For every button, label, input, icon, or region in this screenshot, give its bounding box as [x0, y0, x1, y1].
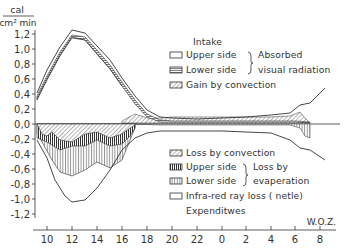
legend-intake-title: Intake	[193, 36, 222, 47]
y-tick: 0,8	[14, 59, 30, 70]
legend-item-upper-side-evap: Upper side	[170, 161, 237, 172]
x-tick: 22	[191, 234, 204, 245]
svg-text:Absorbed: Absorbed	[258, 49, 302, 60]
x-tick: 20	[166, 234, 179, 245]
y-tick: -0,6	[10, 164, 30, 175]
svg-text:visual radiation: visual radiation	[258, 64, 330, 75]
x-tick: 4	[268, 234, 274, 245]
svg-text:Upper side: Upper side	[186, 49, 237, 60]
legend-item-lower-side-intake: Lower side	[170, 64, 237, 75]
y-axis: 1,2 1,0 0,8 0,6 0,4 0,2 0,0 -0,2 -0,4 -0…	[10, 29, 35, 220]
svg-text:Loss by: Loss by	[253, 161, 289, 172]
swatch-horizontal-hatch-icon	[170, 67, 182, 73]
y-unit-numerator: cal	[10, 4, 24, 15]
x-tick: 6	[292, 234, 298, 245]
legend-item-gain-convection: Gain by convection	[170, 79, 276, 90]
y-tick: 0,6	[14, 74, 30, 85]
x-tick: 2	[243, 234, 249, 245]
y-tick: -1,2	[10, 209, 30, 220]
intake-areas	[37, 30, 325, 124]
legend-item-loss-convection: Loss by convection	[170, 147, 275, 158]
svg-text:Gain by convection: Gain by convection	[186, 79, 276, 90]
x-axis-label: W.O.Z.	[307, 217, 336, 227]
svg-text:Loss by convection: Loss by convection	[186, 147, 275, 158]
swatch-diagonal-hatch-icon	[170, 150, 182, 156]
y-unit-denominator: cm² min	[0, 18, 37, 28]
svg-text:evaperation: evaperation	[253, 175, 309, 186]
energy-balance-chart: cal cm² min 1,2 1,0 0,8 0,6 0,4 0,2 0,0 …	[0, 0, 346, 248]
brace-icon	[248, 52, 253, 74]
y-tick: 0,0	[14, 119, 30, 130]
swatch-diagonal-hatch-icon	[170, 82, 182, 88]
x-tick: 16	[116, 234, 129, 245]
y-tick: -0,4	[10, 149, 30, 160]
y-tick: -0,2	[10, 134, 30, 145]
y-tick: -1,0	[10, 194, 30, 205]
svg-text:Infra-red ray loss ( netle): Infra-red ray loss ( netle)	[186, 190, 303, 201]
y-tick: -0,8	[10, 179, 30, 190]
x-tick: 14	[91, 234, 104, 245]
x-tick: 10	[41, 234, 54, 245]
legend-item-infrared-loss: Infra-red ray loss ( netle)	[170, 190, 303, 201]
x-tick: 18	[141, 234, 154, 245]
swatch-blank-icon	[170, 52, 182, 58]
svg-text:Lower side: Lower side	[186, 175, 237, 186]
x-axis: 10 12 14 16 18 20 22 0 2 4 6 8 W.O.Z.	[33, 217, 336, 245]
x-tick: 12	[66, 234, 79, 245]
y-tick: 1,0	[14, 44, 30, 55]
y-tick: 1,2	[14, 29, 30, 40]
swatch-dense-vertical-hatch-icon	[170, 164, 182, 170]
y-tick: 0,4	[14, 89, 30, 100]
legend-intake: Intake Upper side Lower side Gain by con…	[170, 36, 330, 90]
brace-icon	[243, 164, 248, 186]
x-tick: 8	[317, 234, 323, 245]
legend-item-upper-side-intake: Upper side	[170, 49, 237, 60]
legend-expenditures: Loss by convection Upper side Lower side…	[170, 147, 309, 216]
y-tick: 0,2	[14, 104, 30, 115]
svg-text:Upper side: Upper side	[186, 161, 237, 172]
x-tick: 0	[219, 234, 225, 245]
legend-expenditures-title: Expenditwes	[186, 205, 246, 216]
legend-item-lower-side-evap: Lower side	[170, 175, 237, 186]
svg-text:Lower side: Lower side	[186, 64, 237, 75]
y-axis-unit-label: cal cm² min	[0, 4, 37, 28]
swatch-vertical-hatch-icon	[170, 178, 182, 184]
swatch-blank-icon	[170, 193, 182, 199]
